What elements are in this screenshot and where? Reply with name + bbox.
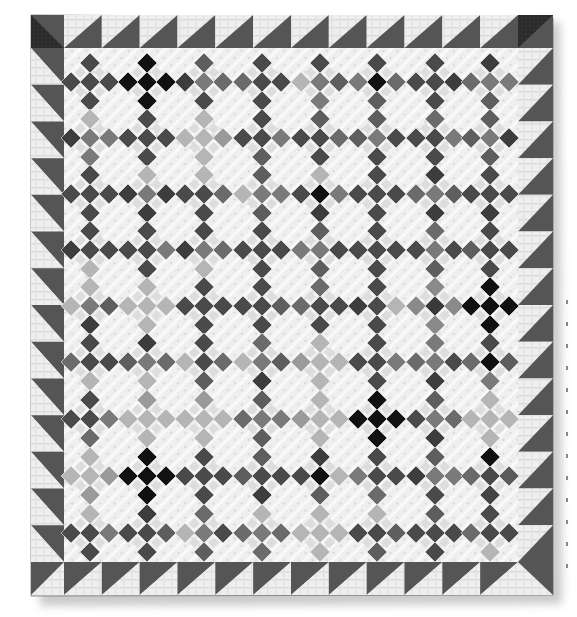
margin-mark (566, 520, 568, 524)
margin-mark (566, 344, 568, 348)
quilt-photo (0, 0, 577, 617)
margin-mark (566, 388, 568, 392)
margin-mark (566, 542, 568, 546)
margin-mark (566, 322, 568, 326)
quilt (31, 15, 553, 596)
margin-mark (566, 410, 568, 414)
margin-mark (566, 432, 568, 436)
margin-mark (566, 476, 568, 480)
facing-page-margin-marks (566, 300, 572, 600)
margin-mark (566, 366, 568, 370)
margin-mark (566, 564, 568, 568)
margin-mark (566, 300, 568, 304)
margin-mark (566, 498, 568, 502)
margin-mark (566, 454, 568, 458)
